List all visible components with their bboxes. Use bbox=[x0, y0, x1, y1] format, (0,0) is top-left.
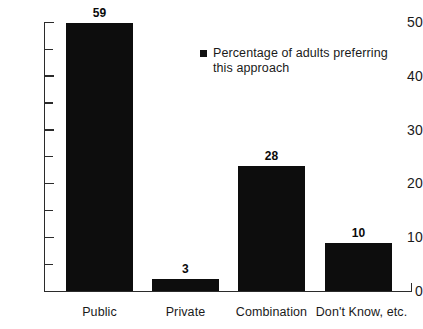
bar-value-label: 59 bbox=[66, 7, 133, 19]
chart-legend: Percentage of adults preferring this app… bbox=[200, 46, 398, 76]
bar-dont-know bbox=[325, 243, 392, 292]
bar-value-label: 10 bbox=[325, 227, 392, 239]
bar-value-label: 28 bbox=[238, 150, 305, 162]
y-axis-tick bbox=[45, 237, 54, 238]
y-axis-minor-tick bbox=[45, 49, 53, 50]
bar-chart: 50 40 30 20 10 0 59 3 28 10 Public Priva… bbox=[0, 0, 423, 329]
y-tick-label: 50 bbox=[389, 15, 423, 29]
y-axis-tick bbox=[45, 183, 54, 184]
legend-square-icon bbox=[200, 50, 207, 57]
y-axis-tick bbox=[45, 129, 54, 130]
bar-combination bbox=[238, 166, 305, 291]
y-axis-minor-tick bbox=[45, 264, 53, 265]
y-axis-tick bbox=[45, 75, 54, 76]
x-category-label: Combination bbox=[223, 306, 320, 319]
y-tick-label: 20 bbox=[389, 176, 423, 190]
y-tick-label: 30 bbox=[389, 123, 423, 137]
x-category-label: Public bbox=[56, 306, 143, 319]
y-tick-label: 10 bbox=[389, 230, 423, 244]
x-category-label: Private bbox=[142, 306, 229, 319]
legend-item-label: Percentage of adults preferring this app… bbox=[213, 46, 398, 76]
bar-private bbox=[152, 279, 219, 291]
y-axis-tick bbox=[45, 22, 54, 23]
y-axis-minor-tick bbox=[45, 156, 53, 157]
y-axis-minor-tick bbox=[45, 210, 53, 211]
x-axis-end-tick bbox=[411, 283, 412, 291]
x-category-label: Don't Know, etc. bbox=[310, 306, 413, 319]
y-axis-minor-tick bbox=[45, 102, 53, 103]
bar-value-label: 3 bbox=[152, 263, 219, 275]
bar-public bbox=[66, 23, 133, 291]
